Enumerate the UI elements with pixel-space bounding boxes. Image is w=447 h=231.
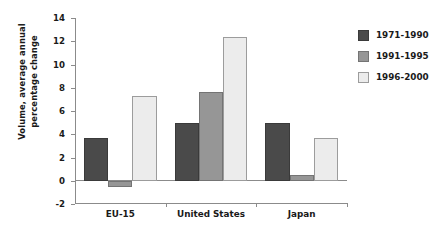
x-tick-mark xyxy=(166,203,167,207)
bar xyxy=(108,181,132,187)
bar xyxy=(132,96,156,181)
y-tick-mark: 10 xyxy=(71,65,75,66)
legend-swatch-icon xyxy=(358,51,369,62)
bar-chart-figure: Volume, average annual percentage change… xyxy=(0,0,447,231)
y-tick-label: 6 xyxy=(59,106,65,116)
bar xyxy=(290,175,314,181)
x-category-label: United States xyxy=(177,209,245,219)
bar xyxy=(199,92,223,181)
y-tick-label: 10 xyxy=(53,60,65,70)
y-tick-mark: 2 xyxy=(71,158,75,159)
x-category-label: Japan xyxy=(288,209,316,219)
legend-label: 1996-2000 xyxy=(376,72,429,82)
y-tick-mark: 0 xyxy=(71,181,75,182)
bar xyxy=(223,37,247,181)
y-tick-label: 0 xyxy=(59,176,65,186)
bar xyxy=(265,123,289,181)
y-tick-mark: 8 xyxy=(71,88,75,89)
legend-label: 1971-1990 xyxy=(376,30,429,40)
legend-label: 1991-1995 xyxy=(376,51,429,61)
legend: 1971-19901991-19951996-2000 xyxy=(358,26,446,89)
y-axis-line xyxy=(75,18,76,204)
y-tick-label: 12 xyxy=(53,36,65,46)
y-tick-label: -2 xyxy=(55,199,65,209)
bar xyxy=(314,138,338,181)
x-category-label: EU-15 xyxy=(106,209,135,219)
y-tick-mark: 4 xyxy=(71,134,75,135)
y-tick-mark: 12 xyxy=(71,41,75,42)
y-axis-title-container: Volume, average annual percentage change xyxy=(0,0,46,231)
y-tick-label: 14 xyxy=(53,13,65,23)
legend-swatch-icon xyxy=(358,30,369,41)
bar xyxy=(84,138,108,180)
y-tick-label: 2 xyxy=(59,153,65,163)
plot-area: 14121086420-2 EU-15United StatesJapan xyxy=(75,18,347,204)
legend-item[interactable]: 1971-1990 xyxy=(358,26,446,44)
x-axis-line xyxy=(75,203,347,204)
x-tick-mark xyxy=(347,203,348,207)
bar xyxy=(175,123,199,181)
y-tick-label: 8 xyxy=(59,83,65,93)
y-tick-mark: -2 xyxy=(71,204,75,205)
y-tick-mark: 6 xyxy=(71,111,75,112)
y-tick-label: 4 xyxy=(59,129,65,139)
legend-swatch-icon xyxy=(358,72,369,83)
y-axis-title: Volume, average annual percentage change xyxy=(17,2,40,162)
legend-item[interactable]: 1996-2000 xyxy=(358,68,446,86)
y-tick-mark: 14 xyxy=(71,18,75,19)
x-tick-mark xyxy=(256,203,257,207)
legend-item[interactable]: 1991-1995 xyxy=(358,47,446,65)
